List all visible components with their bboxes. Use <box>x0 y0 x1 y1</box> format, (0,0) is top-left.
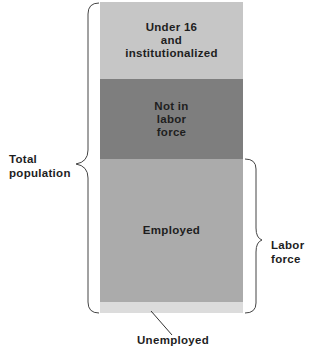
unemployed-leader-line <box>151 311 172 335</box>
total-population-brace-icon <box>76 3 99 313</box>
labor-force-label: Labor force <box>271 238 304 266</box>
total-population-label: Total population <box>9 152 71 180</box>
labor-force-brace-icon <box>245 159 262 313</box>
unemployed-label: Unemployed <box>137 333 209 347</box>
